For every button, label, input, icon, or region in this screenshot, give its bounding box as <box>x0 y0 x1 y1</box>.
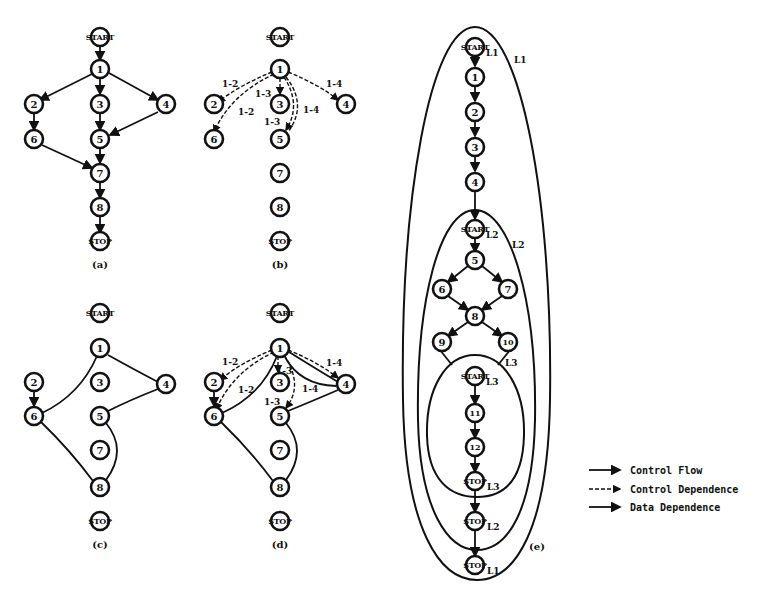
svg-text:6: 6 <box>439 284 446 295</box>
svg-text:3: 3 <box>277 99 284 110</box>
svg-text:5: 5 <box>277 411 284 422</box>
loop-label-L3: L3 <box>505 358 518 368</box>
node-1: 1 <box>271 60 289 78</box>
svg-text:STOP: STOP <box>463 476 487 486</box>
stop-label-L2: L2 <box>487 522 500 532</box>
svg-text:2: 2 <box>472 107 479 118</box>
loop-label-L1: L1 <box>514 55 527 65</box>
svg-text:8: 8 <box>277 482 284 493</box>
node-6: 6 <box>205 130 223 148</box>
svg-text:4: 4 <box>343 99 350 110</box>
start-node: START <box>266 28 295 46</box>
node-2: 2 <box>25 95 43 113</box>
svg-text:11: 11 <box>469 408 480 418</box>
caption-c: (c) <box>92 539 108 550</box>
node-9: 9 <box>433 333 451 351</box>
start-node: START <box>266 304 295 322</box>
caption-b: (b) <box>272 259 288 270</box>
node-7: 7 <box>499 280 517 298</box>
start-node: START <box>86 304 115 322</box>
svg-text:4: 4 <box>472 177 479 188</box>
node-7: 7 <box>271 164 289 182</box>
dep-label-1-2: 1-2 <box>222 357 238 367</box>
node-5: 5 <box>271 407 289 425</box>
stop-node: STOP <box>268 512 292 530</box>
legend-item-data-dependence: Data Dependence <box>589 502 720 513</box>
svg-text:STOP: STOP <box>268 236 292 246</box>
svg-text:STOP: STOP <box>268 516 292 526</box>
svg-text:7: 7 <box>97 445 104 456</box>
node-1: 1 <box>91 60 109 78</box>
node-8: 8 <box>466 307 484 325</box>
node-2: 2 <box>205 95 223 113</box>
caption-a: (a) <box>92 259 108 270</box>
svg-text:Data Dependence: Data Dependence <box>630 502 720 513</box>
node-8: 8 <box>91 478 109 496</box>
dep-label-1-2: 1-2 <box>222 79 238 89</box>
svg-text:STOP: STOP <box>463 560 487 570</box>
panel-c-data-dependence: START 1 2 3 4 6 5 7 8 STOP (c) <box>25 304 175 550</box>
svg-text:STOP: STOP <box>88 236 112 246</box>
panel-a-control-flow-graph: START 1 2 3 4 6 5 7 8 STOP (a) <box>25 28 175 270</box>
node-4: 4 <box>337 95 355 113</box>
svg-text:3: 3 <box>277 377 284 388</box>
panel-d-program-dependence-graph: 1-2 1-2 1-3 1-3 1-4 1-4 START 1 2 3 4 6 … <box>205 304 355 550</box>
svg-text:3: 3 <box>97 377 104 388</box>
node-5: 5 <box>91 407 109 425</box>
svg-text:9: 9 <box>439 337 446 348</box>
node-2: 2 <box>25 373 43 391</box>
dep-label-1-3: 1-3 <box>264 397 280 407</box>
svg-text:6: 6 <box>31 134 38 145</box>
svg-text:5: 5 <box>277 134 284 145</box>
svg-text:START: START <box>86 308 115 318</box>
node-11: 11 <box>466 404 484 422</box>
svg-text:START: START <box>266 32 295 42</box>
dep-label-1-4: 1-4 <box>326 79 342 89</box>
program-graph-figure: START 1 2 3 4 6 5 7 8 STOP (a) 1-2 1-2 1… <box>0 0 780 603</box>
svg-text:8: 8 <box>472 311 479 322</box>
node-4: 4 <box>337 375 355 393</box>
svg-text:2: 2 <box>211 99 218 110</box>
svg-text:4: 4 <box>163 379 170 390</box>
svg-text:STOP: STOP <box>463 516 487 526</box>
dep-label-1-2: 1-2 <box>238 107 254 117</box>
svg-text:STOP: STOP <box>88 516 112 526</box>
stop-label-L3: L3 <box>487 482 500 492</box>
stop-label-L1: L1 <box>487 566 500 576</box>
stop-node: STOP <box>88 512 112 530</box>
node-5: 5 <box>466 251 484 269</box>
svg-text:7: 7 <box>97 168 104 179</box>
svg-text:1: 1 <box>472 72 479 83</box>
svg-text:8: 8 <box>277 202 284 213</box>
node-3: 3 <box>271 95 289 113</box>
stop-node: STOP <box>88 232 112 250</box>
svg-text:2: 2 <box>211 377 218 388</box>
node-10: 10 <box>499 333 517 351</box>
node-3: 3 <box>466 138 484 156</box>
svg-text:1: 1 <box>277 64 284 75</box>
dep-label-1-4: 1-4 <box>302 384 318 394</box>
svg-text:12: 12 <box>469 442 480 452</box>
svg-text:4: 4 <box>343 379 350 390</box>
caption-e: (e) <box>529 541 545 552</box>
node-8: 8 <box>271 198 289 216</box>
stop-node-L2: STOP <box>463 512 487 530</box>
stop-node: STOP <box>268 232 292 250</box>
node-6: 6 <box>205 407 223 425</box>
node-8: 8 <box>271 478 289 496</box>
node-3: 3 <box>271 373 289 391</box>
panel-b-control-dependence: 1-2 1-2 1-3 1-3 1-4 1-4 START 1 2 3 4 6 … <box>205 28 355 270</box>
svg-text:1: 1 <box>97 64 104 75</box>
start-label-L1: L1 <box>486 48 499 58</box>
svg-text:7: 7 <box>277 445 284 456</box>
svg-text:Control Dependence: Control Dependence <box>630 484 738 495</box>
node-4: 4 <box>466 173 484 191</box>
node-5: 5 <box>91 130 109 148</box>
svg-text:2: 2 <box>31 99 38 110</box>
node-1: 1 <box>466 68 484 86</box>
start-label-L3: L3 <box>486 377 499 387</box>
svg-text:1: 1 <box>277 343 284 354</box>
node-3: 3 <box>91 95 109 113</box>
svg-text:7: 7 <box>277 168 284 179</box>
loop-label-L2: L2 <box>512 240 525 250</box>
